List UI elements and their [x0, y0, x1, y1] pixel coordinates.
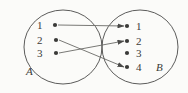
element-dot-a2 [54, 38, 58, 42]
mapping-diagram: 1 2 3 1 2 3 4 A B [0, 0, 188, 93]
element-dot-b2 [125, 39, 129, 43]
diagram-canvas [0, 0, 188, 93]
element-dot-a1 [53, 23, 57, 27]
element-dot-b4 [125, 65, 129, 69]
element-label-b1: 1 [136, 21, 142, 32]
element-label-a3: 3 [37, 48, 43, 59]
set-label-b: B [156, 62, 163, 73]
element-label-b2: 2 [136, 36, 142, 47]
element-label-a1: 1 [37, 20, 43, 31]
arrow-a3-to-b2 [59, 41, 124, 53]
element-label-a2: 2 [37, 35, 43, 46]
set-label-a: A [26, 66, 33, 77]
element-dot-a3 [54, 51, 58, 55]
arrow-a1-to-b1 [58, 25, 124, 26]
element-label-b3: 3 [136, 48, 142, 59]
element-label-b4: 4 [136, 62, 142, 73]
arrow-a2-to-b4 [59, 40, 124, 67]
element-dot-b1 [125, 24, 129, 28]
element-dot-b3 [125, 51, 129, 55]
